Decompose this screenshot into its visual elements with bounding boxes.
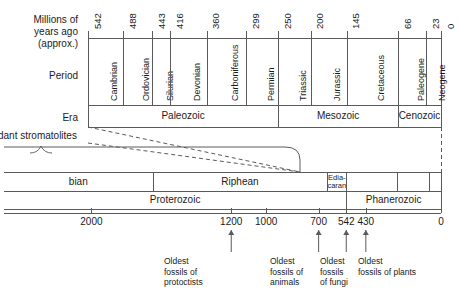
- period-divider: [170, 38, 171, 105]
- period-divider: [426, 38, 427, 105]
- fossil-annotation-700: Oldestfossils ofanimals: [270, 256, 320, 288]
- period-label-cambrian: Cambrian: [110, 62, 119, 101]
- unit-label-bian: bian: [4, 176, 153, 187]
- era-row-bottom-border: [88, 127, 441, 128]
- fossil-annotation-line-0: Oldest: [270, 256, 320, 267]
- top-tick-label: 299: [251, 13, 261, 29]
- top-tick-label: 0: [446, 24, 456, 29]
- axis-title-line-3: (approx.): [4, 38, 78, 50]
- stromatolites-brace: [30, 146, 52, 153]
- fossil-annotation-430: Oldestfossils of plants: [358, 256, 458, 277]
- axis-title-line-2: years ago: [4, 26, 78, 38]
- top-tick-mark: [123, 31, 124, 38]
- top-tick-mark: [152, 31, 153, 38]
- row-label-era: Era: [4, 112, 78, 124]
- period-divider: [278, 38, 279, 105]
- era-label-paleozoic: Paleozoic: [88, 110, 278, 121]
- top-tick-label: 443: [157, 13, 167, 29]
- bottom-axis-line: [4, 213, 441, 214]
- top-tick-mark: [246, 31, 247, 38]
- bottom-tick-label: 2000: [69, 216, 113, 227]
- period-divider: [246, 38, 247, 105]
- period-divider: [347, 38, 348, 105]
- top-tick-mark: [311, 31, 312, 38]
- period-label-jurassic: Jurassic: [333, 68, 342, 101]
- period-label-ordovician: Ordovician: [142, 58, 151, 101]
- deep-unit-divider: [346, 172, 347, 191]
- top-tick-label: 360: [211, 13, 221, 29]
- period-divider: [311, 38, 312, 105]
- bottom-tick-mark: [91, 208, 92, 213]
- row-label-period: Period: [4, 70, 78, 82]
- fossil-annotation-line-2: of fungi: [320, 277, 360, 288]
- eon-label-proterozoic: Proterozoic: [4, 194, 346, 205]
- unit-label-ediacaran-line2: caran: [327, 182, 346, 190]
- top-tick-mark: [347, 31, 348, 38]
- period-label-paleogene: Paleogene: [417, 58, 426, 101]
- geologic-time-scale-figure: Millions of years ago (approx.) Period E…: [0, 0, 459, 302]
- fossil-annotation-line-2: protoctists: [164, 277, 222, 288]
- bottom-tick-mark: [266, 208, 267, 213]
- bottom-tick-label: 1000: [244, 216, 288, 227]
- bottom-tick-mark: [319, 208, 320, 213]
- period-label-carboniferous: Carboniferous: [231, 44, 240, 101]
- fossil-annotation-line-1: fossils: [320, 267, 360, 278]
- fossil-annotation-line-1: fossils of plants: [358, 267, 458, 278]
- period-label-cretaceous: Cretaceous: [377, 55, 386, 101]
- fossil-annotation-line-2: animals: [270, 277, 320, 288]
- eon-label-phanerozoic: Phanerozoic: [346, 194, 441, 205]
- top-tick-label: 66: [403, 18, 413, 29]
- deep-row-bottom-border: [4, 209, 441, 210]
- axis-title: Millions of years ago (approx.): [4, 14, 78, 50]
- deep-row-middle-divider: [4, 191, 441, 192]
- top-tick-label: 200: [315, 13, 325, 29]
- period-era-divider: [88, 105, 441, 106]
- bottom-tick-label: 430: [344, 216, 388, 227]
- deep-row-top-border: [4, 172, 441, 173]
- fossil-annotation-line-1: fossils of: [270, 267, 320, 278]
- top-tick-mark: [441, 31, 442, 38]
- top-tick-mark: [426, 31, 427, 38]
- top-tick-mark: [170, 31, 171, 38]
- top-tick-label: 416: [175, 13, 185, 29]
- unit-label-riphean: Riphean: [153, 176, 328, 187]
- bottom-tick-label: 0: [419, 216, 459, 227]
- stromatolites-caption: dant stromatolites: [0, 130, 77, 142]
- period-divider: [123, 38, 124, 105]
- bottom-tick-mark: [366, 208, 367, 213]
- period-divider: [152, 38, 153, 105]
- deep-unit-divider: [397, 172, 398, 191]
- fossil-annotation-line-1: fossils of: [164, 267, 222, 278]
- deep-right-border: [441, 172, 442, 209]
- period-label-permian: Permian: [267, 67, 276, 101]
- top-tick-mark: [88, 31, 89, 38]
- fossil-annotation-line-0: Oldest: [358, 256, 458, 267]
- fossil-annotation-1200: Oldestfossils ofprotoctists: [164, 256, 222, 288]
- period-label-devonian: Devonian: [193, 63, 202, 101]
- era-label-cenozoic: Cenozoic: [398, 110, 441, 121]
- fossil-annotation-542: Oldestfossilsof fungi: [320, 256, 360, 288]
- top-tick-mark: [207, 31, 208, 38]
- expansion-bracket: [4, 147, 300, 172]
- top-tick-mark: [398, 31, 399, 38]
- top-tick-label: 145: [351, 13, 361, 29]
- period-divider: [207, 38, 208, 105]
- top-tick-label: 542: [93, 13, 103, 29]
- axis-title-line-1: Millions of: [4, 14, 78, 26]
- period-label-neogene: Neogene: [438, 64, 447, 101]
- top-tick-label: 250: [283, 13, 293, 29]
- deep-unit-divider: [429, 172, 430, 191]
- top-tick-label: 488: [128, 13, 138, 29]
- period-divider: [398, 38, 399, 105]
- period-row-top-border: [88, 38, 441, 39]
- fossil-annotation-line-0: Oldest: [320, 256, 360, 267]
- bottom-tick-mark: [441, 208, 442, 213]
- period-label-triassic: Triassic: [299, 70, 308, 101]
- fossil-annotation-line-0: Oldest: [164, 256, 222, 267]
- era-label-mesozoic: Mesozoic: [278, 110, 398, 121]
- top-tick-mark: [278, 31, 279, 38]
- bottom-tick-mark: [346, 208, 347, 213]
- top-tick-label: 23: [431, 18, 441, 29]
- bottom-tick-mark: [231, 208, 232, 213]
- dashed-connector-lines: [88, 127, 300, 172]
